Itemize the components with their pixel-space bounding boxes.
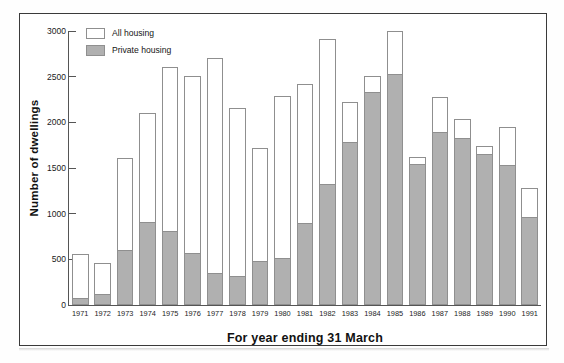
legend-swatch-all-housing [86,28,105,39]
bar-group [432,31,449,305]
bar-group [229,31,246,305]
bar-group [364,31,381,305]
bar-group [409,31,426,305]
bar-group [297,31,314,305]
bar-private-housing [319,184,336,305]
x-tick-label: 1981 [297,309,313,318]
y-tick-label: 3000 [26,25,66,37]
bar-private-housing [117,250,134,305]
y-axis-title: Number of dwellings [28,58,40,258]
bar-group [499,31,516,305]
x-tick-label: 1988 [454,309,470,318]
legend-item-all-housing: All housing [86,26,216,40]
page-shadow [19,348,549,351]
bar-private-housing [409,164,426,305]
y-tick-label: 2000 [26,116,66,128]
x-tick-label: 1975 [162,309,178,318]
bar-private-housing [229,276,246,305]
x-tick-label: 1977 [207,309,223,318]
x-tick-label: 1985 [387,309,403,318]
bar-group [139,31,156,305]
chart-legend: All housing Private housing [86,26,216,60]
bar-private-housing [94,294,111,305]
bar-private-housing [184,253,201,305]
x-tick-label: 1976 [184,309,200,318]
x-axis-line [68,305,541,306]
bar-private-housing [454,138,471,305]
chart-figure: Number of dwellings 05001000150020002500… [0,0,564,363]
y-tick-label: 0 [26,299,66,311]
bar-group [207,31,224,305]
legend-label-private-housing: Private housing [112,45,171,56]
bar-private-housing [162,231,179,305]
bar-private-housing [521,217,538,305]
bar-group [319,31,336,305]
bar-group [342,31,359,305]
x-tick-label: 1982 [319,309,335,318]
x-tick-label: 1971 [72,309,88,318]
x-tick-label: 1972 [94,309,110,318]
y-tick-label: 2500 [26,71,66,83]
bar-group [521,31,538,305]
bar-group [454,31,471,305]
x-tick-label: 1983 [342,309,358,318]
x-tick-label: 1984 [364,309,380,318]
x-tick-label: 1991 [522,309,538,318]
bar-group [476,31,493,305]
bar-group [184,31,201,305]
bar-private-housing [252,261,269,305]
bar-private-housing [72,298,89,305]
x-tick-label: 1973 [117,309,133,318]
x-tick-label: 1980 [274,309,290,318]
x-tick-label: 1978 [229,309,245,318]
bar-private-housing [499,165,516,305]
x-tick-label: 1986 [409,309,425,318]
bar-all-housing [207,58,224,305]
bar-private-housing [297,223,314,305]
bar-group [252,31,269,305]
bar-private-housing [139,222,156,305]
x-tick-label: 1990 [499,309,515,318]
bar-private-housing [364,92,381,305]
bar-group [72,31,89,305]
x-tick-label: 1974 [139,309,155,318]
x-axis-title: For year ending 31 March [69,331,541,345]
bar-private-housing [274,258,291,305]
bar-group [117,31,134,305]
bar-group [274,31,291,305]
bar-private-housing [476,154,493,305]
y-tick-label: 500 [26,253,66,265]
bar-group [94,31,111,305]
y-tick-label: 1000 [26,208,66,220]
bar-private-housing [342,142,359,305]
legend-swatch-private-housing [86,45,105,56]
y-tick-label: 1500 [26,162,66,174]
x-tick-label: 1987 [432,309,448,318]
bar-private-housing [432,132,449,305]
x-tick-label: 1979 [252,309,268,318]
plot-area [69,31,541,305]
legend-item-private-housing: Private housing [86,43,216,57]
legend-label-all-housing: All housing [112,28,154,39]
x-tick-label: 1989 [477,309,493,318]
bar-group [162,31,179,305]
bar-private-housing [207,273,224,305]
bar-private-housing [387,74,404,305]
bar-group [387,31,404,305]
